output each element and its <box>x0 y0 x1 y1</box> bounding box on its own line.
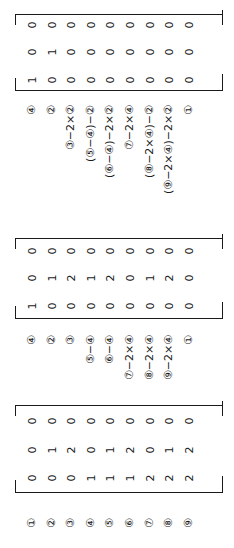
row-label: ① <box>24 518 40 528</box>
matrix-cell: 1 <box>83 470 99 486</box>
matrix-cell: 2 <box>181 442 197 458</box>
matrix-cell: 1 <box>102 470 118 486</box>
matrix-cell: 0 <box>24 470 40 486</box>
matrix-cell: 0 <box>24 442 40 458</box>
matrix-cell: 0 <box>161 413 177 429</box>
matrix-cell: 0 <box>24 413 40 429</box>
matrix-cell: 0 <box>142 442 158 458</box>
matrix-cell: 0 <box>102 413 118 429</box>
matrix-cell: 0 <box>44 470 60 486</box>
matrix-cell: 0 <box>44 413 60 429</box>
matrix-cell: 0 <box>142 413 158 429</box>
matrix-cell: 2 <box>63 442 79 458</box>
matrix-cell: 1 <box>161 442 177 458</box>
row-label: ⑦ <box>142 518 158 528</box>
row-label: ② <box>44 518 60 528</box>
matrix-cell: 0 <box>181 413 197 429</box>
matrix-cell: 2 <box>122 442 138 458</box>
matrix-cell: 0 <box>83 442 99 458</box>
bracket-tick <box>222 401 223 416</box>
bracket-top <box>15 405 223 406</box>
row-label: ⑧ <box>161 518 177 528</box>
row-label: ④ <box>83 518 99 528</box>
matrix-initial: 000000000012012012000111222①②③④⑤⑥⑦⑧⑨ <box>0 0 234 548</box>
matrix-cell: 2 <box>161 470 177 486</box>
matrix-cell: 1 <box>44 442 60 458</box>
bracket-tick <box>222 476 223 492</box>
matrix-cell: 2 <box>142 470 158 486</box>
row-label: ⑤ <box>102 518 118 528</box>
matrix-cell: 0 <box>122 413 138 429</box>
row-label: ⑨ <box>181 518 197 528</box>
matrix-cell: 0 <box>63 470 79 486</box>
bracket-tick <box>15 480 16 492</box>
matrix-cell: 1 <box>122 470 138 486</box>
matrix-cell: 0 <box>63 413 79 429</box>
row-label: ⑥ <box>122 518 138 528</box>
bracket-tick <box>15 405 16 416</box>
bracket-bottom <box>15 492 223 493</box>
row-label: ③ <box>63 518 79 528</box>
matrix-cell: 2 <box>181 470 197 486</box>
matrix-cell: 0 <box>83 413 99 429</box>
matrix-cell: 1 <box>102 442 118 458</box>
